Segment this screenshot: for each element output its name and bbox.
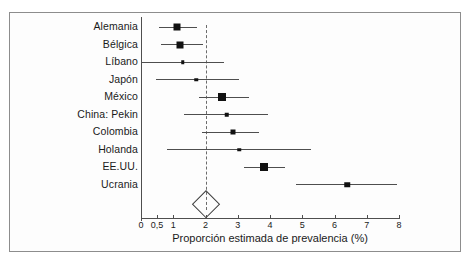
study-label-japon: Japón (109, 74, 138, 85)
x-axis-tick (238, 215, 239, 219)
screenshot-root: Alemania Bélgica Líbano Japón México Chi… (0, 0, 472, 263)
study-label-ucrania: Ucrania (101, 179, 138, 190)
x-axis-tick-label: 1 (171, 220, 176, 230)
study-label-colombia: Colombia (93, 126, 138, 137)
point-estimate-marker (174, 24, 181, 31)
point-estimate-marker (181, 60, 185, 64)
x-axis-tick-label: 0,5 (151, 220, 164, 230)
study-label-china-pekin: China: Pekin (77, 109, 138, 120)
study-label-mexico: México (104, 91, 138, 102)
x-axis-tick-label: 2 (203, 220, 208, 230)
x-axis-tick (141, 215, 142, 219)
x-axis-tick (173, 215, 174, 219)
x-axis-tick-label: 5 (300, 220, 305, 230)
study-label-libano: Líbano (105, 56, 138, 67)
x-axis-tick (206, 215, 207, 219)
x-axis-tick-label: 3 (235, 220, 240, 230)
x-axis-tick (367, 215, 368, 219)
study-label-belgica: Bélgica (103, 39, 138, 50)
x-axis-tick-label: 0 (138, 220, 143, 230)
study-label-alemania: Alemania (93, 21, 138, 32)
reference-line (206, 25, 207, 210)
y-axis-line (141, 17, 142, 221)
point-estimate-marker (195, 78, 199, 82)
point-estimate-marker (230, 130, 235, 135)
point-estimate-marker (218, 93, 226, 101)
x-axis-tick-label: 4 (267, 220, 272, 230)
x-axis-tick (399, 215, 400, 219)
point-estimate-marker (176, 41, 183, 48)
x-axis-tick (270, 215, 271, 219)
study-label-holanda: Holanda (98, 144, 138, 155)
study-label-eeuu: EE.UU. (102, 161, 138, 172)
point-estimate-marker (345, 182, 351, 188)
x-axis-tick (302, 215, 303, 219)
x-axis-tick-label: 6 (332, 220, 337, 230)
x-axis-tick (157, 215, 158, 219)
summary-diamond (192, 190, 220, 218)
x-axis-tick-label: 7 (364, 220, 369, 230)
forest-plot: Alemania Bélgica Líbano Japón México Chi… (0, 0, 472, 263)
x-axis-tick-label: 8 (396, 220, 401, 230)
x-axis-tick (335, 215, 336, 219)
point-estimate-marker (260, 163, 268, 171)
point-estimate-marker (237, 148, 241, 152)
x-axis-title: Proporción estimada de prevalencia (%) (141, 232, 399, 244)
point-estimate-marker (225, 112, 230, 117)
